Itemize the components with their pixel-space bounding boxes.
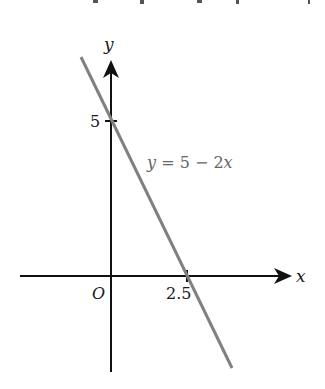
y-axis-label: y — [103, 34, 114, 54]
line-y-equals-5-minus-2x — [81, 57, 232, 368]
cut-off-header-text — [93, 0, 310, 4]
x-tick-label-2-5: 2.5 — [166, 284, 191, 303]
x-axis-label: x — [296, 266, 306, 286]
y-tick-label-5: 5 — [90, 112, 100, 131]
origin-label: O — [92, 284, 105, 303]
equation-label: y = 5 − 2x — [146, 153, 233, 172]
graph-canvas: y x O 5 2.5 y = 5 − 2x — [0, 0, 325, 389]
